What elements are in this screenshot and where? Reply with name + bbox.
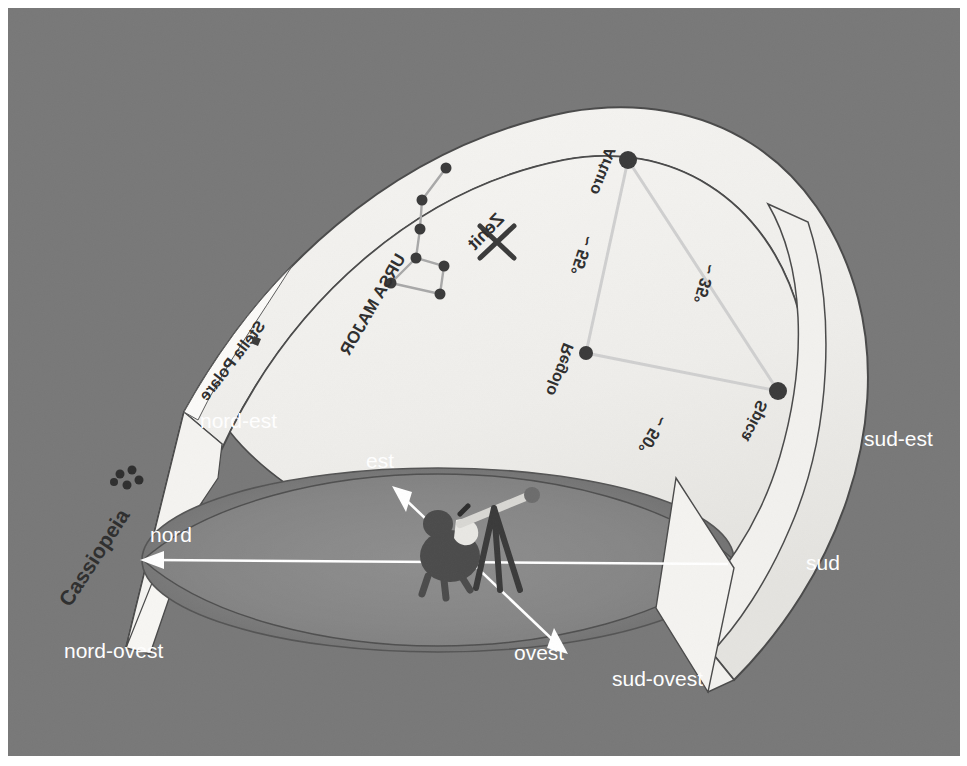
celestial-dome-svg: URSA MAJOR Stella Polare Zenit [8,8,960,756]
figure-canvas: URSA MAJOR Stella Polare Zenit [8,8,960,756]
page-root: URSA MAJOR Stella Polare Zenit [0,0,967,766]
scan-grain-overlay [8,8,960,756]
